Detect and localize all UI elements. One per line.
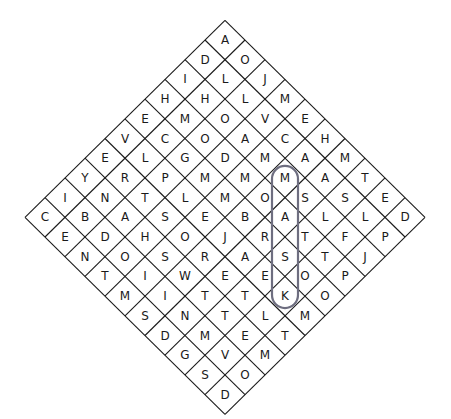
letter-cell[interactable]: E <box>381 191 389 205</box>
letter-cell[interactable]: L <box>182 191 189 205</box>
letter-cell[interactable]: M <box>300 309 310 323</box>
letter-cell[interactable]: T <box>360 171 369 185</box>
letter-cell[interactable]: L <box>222 72 229 86</box>
letter-cell[interactable]: Y <box>80 171 89 185</box>
letter-cell[interactable]: N <box>81 250 90 264</box>
letter-cell[interactable]: E <box>141 112 149 126</box>
letter-cell[interactable]: A <box>281 210 290 224</box>
letter-cell[interactable]: H <box>140 230 149 244</box>
letter-cell[interactable]: G <box>180 151 189 165</box>
letter-cell[interactable]: M <box>220 191 230 205</box>
letter-cell[interactable]: J <box>222 230 227 244</box>
letter-cell[interactable]: M <box>260 151 270 165</box>
letter-cell[interactable]: D <box>220 388 229 402</box>
letter-cell[interactable]: E <box>301 112 309 126</box>
letter-cell[interactable]: T <box>240 289 249 303</box>
letter-cell[interactable]: S <box>341 191 349 205</box>
letter-cell[interactable]: F <box>342 230 349 244</box>
letter-cell[interactable]: R <box>201 250 209 264</box>
letter-cell[interactable]: O <box>300 269 309 283</box>
letter-cell[interactable]: O <box>220 112 229 126</box>
letter-cell[interactable]: D <box>200 53 209 67</box>
letter-cell[interactable]: S <box>301 191 309 205</box>
letter-cell[interactable]: B <box>241 210 249 224</box>
letter-cell[interactable]: M <box>240 171 250 185</box>
letter-cell[interactable]: V <box>121 132 130 146</box>
letter-cell[interactable]: P <box>341 269 348 283</box>
letter-cell[interactable]: H <box>160 92 169 106</box>
letter-cell[interactable]: J <box>262 72 267 86</box>
letter-cell[interactable]: E <box>221 269 229 283</box>
letter-cell[interactable]: L <box>322 210 329 224</box>
letter-cell[interactable]: D <box>100 230 109 244</box>
letter-cell[interactable]: T <box>320 250 329 264</box>
letter-cell[interactable]: L <box>142 151 149 165</box>
letter-cell[interactable]: M <box>180 112 190 126</box>
letter-cell[interactable]: S <box>161 250 169 264</box>
letter-cell[interactable]: S <box>161 210 169 224</box>
letter-cell[interactable]: V <box>221 348 230 362</box>
letter-cell[interactable]: O <box>240 53 249 67</box>
letter-cell[interactable]: H <box>200 92 209 106</box>
letter-cell[interactable]: J <box>362 250 367 264</box>
letter-cell[interactable]: M <box>340 151 350 165</box>
letter-cell[interactable]: K <box>281 289 290 303</box>
letter-cell[interactable]: T <box>280 329 289 343</box>
letter-cell[interactable]: R <box>121 171 129 185</box>
letter-cell[interactable]: A <box>301 151 310 165</box>
letter-cell[interactable]: P <box>161 171 168 185</box>
letter-cell[interactable]: E <box>201 210 209 224</box>
letter-cell[interactable]: P <box>381 230 388 244</box>
letter-cell[interactable]: R <box>261 230 269 244</box>
letter-cell[interactable]: E <box>241 329 249 343</box>
letter-cell[interactable]: O <box>120 250 129 264</box>
letter-cell[interactable]: H <box>320 132 329 146</box>
letter-cell[interactable]: A <box>221 33 230 47</box>
letter-cell[interactable]: A <box>241 132 250 146</box>
letter-cell[interactable]: D <box>400 210 409 224</box>
letter-cell[interactable]: S <box>201 368 209 382</box>
letter-cell[interactable]: B <box>81 210 89 224</box>
letter-cell[interactable]: N <box>181 309 190 323</box>
letter-cell[interactable]: E <box>261 269 269 283</box>
letter-cell[interactable]: T <box>200 289 209 303</box>
letter-cell[interactable]: O <box>180 230 189 244</box>
letter-cell[interactable]: W <box>179 269 191 283</box>
letter-cell[interactable]: T <box>220 309 229 323</box>
letter-cell[interactable]: D <box>160 329 169 343</box>
letter-cell[interactable]: O <box>200 132 209 146</box>
letter-cell[interactable]: M <box>260 348 270 362</box>
letter-cell[interactable]: I <box>143 269 147 283</box>
letter-cell[interactable]: M <box>200 329 210 343</box>
letter-cell[interactable]: M <box>200 171 210 185</box>
letter-cell[interactable]: L <box>262 309 269 323</box>
letter-cell[interactable]: T <box>140 191 149 205</box>
letter-cell[interactable]: E <box>101 151 109 165</box>
letter-cell[interactable]: I <box>183 72 187 86</box>
letter-cell[interactable]: L <box>242 92 249 106</box>
letter-cell[interactable]: E <box>61 230 69 244</box>
letter-cell[interactable]: D <box>220 151 229 165</box>
letter-cell[interactable]: S <box>281 250 289 264</box>
letter-cell[interactable]: I <box>63 191 67 205</box>
letter-cell[interactable]: M <box>280 92 290 106</box>
letter-cell[interactable]: O <box>240 368 249 382</box>
letter-cell[interactable]: S <box>141 309 149 323</box>
letter-cell[interactable]: I <box>163 289 167 303</box>
letter-cell[interactable]: M <box>280 171 290 185</box>
letter-cell[interactable]: N <box>101 191 110 205</box>
letter-cell[interactable]: C <box>281 132 289 146</box>
letter-cell[interactable]: T <box>100 269 109 283</box>
letter-cell[interactable]: L <box>362 210 369 224</box>
letter-cell[interactable]: A <box>241 250 250 264</box>
letter-cell[interactable]: O <box>320 289 329 303</box>
letter-cell[interactable]: C <box>41 210 49 224</box>
letter-cell[interactable]: O <box>260 191 269 205</box>
letter-cell[interactable]: M <box>120 289 130 303</box>
letter-cell[interactable]: G <box>180 348 189 362</box>
letter-cell[interactable]: A <box>321 171 330 185</box>
letter-cell[interactable]: C <box>161 132 169 146</box>
letter-cell[interactable]: A <box>121 210 130 224</box>
letter-cell[interactable]: T <box>300 230 309 244</box>
letter-cell[interactable]: V <box>261 112 270 126</box>
